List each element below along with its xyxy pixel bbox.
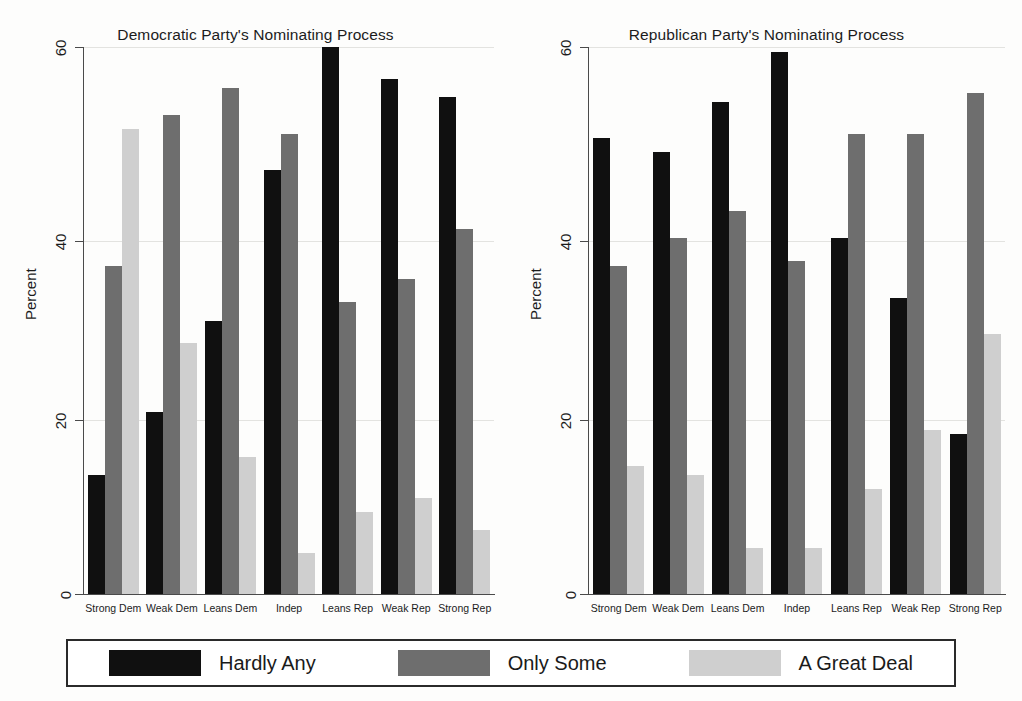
bar xyxy=(222,88,239,594)
x-tick-label: Strong Rep xyxy=(435,599,494,621)
bar xyxy=(381,79,398,594)
panel-title: Republican Party's Nominating Process xyxy=(511,26,1022,44)
bar xyxy=(322,47,339,594)
bar xyxy=(746,548,763,594)
bar xyxy=(907,134,924,594)
bar xyxy=(180,343,197,594)
panel-title: Democratic Party's Nominating Process xyxy=(0,26,511,44)
legend-label: Only Some xyxy=(508,652,607,675)
bar-group xyxy=(377,47,436,594)
legend-swatch-icon xyxy=(398,650,490,676)
x-tick-label: Strong Rep xyxy=(946,599,1005,621)
y-tick-60: 60 xyxy=(580,47,588,48)
plot-area xyxy=(589,47,1005,594)
bar-groups xyxy=(589,47,1005,594)
bar-group xyxy=(946,47,1005,594)
y-tick-label-60: 60 xyxy=(53,39,68,56)
x-tick-label: Strong Dem xyxy=(84,599,143,621)
legend-item: A Great Deal xyxy=(689,650,914,676)
bar xyxy=(339,302,356,594)
y-tick-0: 0 xyxy=(580,594,588,595)
bar xyxy=(456,229,473,594)
y-tick-label-40: 40 xyxy=(53,233,68,250)
x-tick-label: Weak Dem xyxy=(143,599,202,621)
x-tick-labels: Strong DemWeak DemLeans DemIndepLeans Re… xyxy=(589,599,1005,621)
bar xyxy=(473,530,490,594)
bar xyxy=(439,97,456,594)
bar xyxy=(967,93,984,594)
y-tick-40: 40 xyxy=(75,241,83,242)
x-tick-labels: Strong DemWeak DemLeans DemIndepLeans Re… xyxy=(84,599,494,621)
bar xyxy=(122,129,139,594)
x-tick-label: Leans Dem xyxy=(201,599,260,621)
bar-group xyxy=(708,47,767,594)
y-tick-20: 20 xyxy=(75,420,83,421)
bar xyxy=(415,498,432,594)
x-tick-label: Leans Dem xyxy=(708,599,767,621)
bar-group xyxy=(143,47,202,594)
x-tick-label: Indep xyxy=(767,599,826,621)
x-tick-label: Weak Rep xyxy=(377,599,436,621)
bar xyxy=(205,321,222,595)
bar xyxy=(890,298,907,594)
bar xyxy=(848,134,865,594)
x-axis-line xyxy=(588,594,1006,595)
legend-swatch-icon xyxy=(109,650,201,676)
bar-group xyxy=(201,47,260,594)
bar xyxy=(924,430,941,594)
y-tick-20: 20 xyxy=(580,420,588,421)
chart-panel-republican: Republican Party's Nominating Process Pe… xyxy=(511,0,1022,628)
bar xyxy=(356,512,373,594)
bar-group xyxy=(767,47,826,594)
bar xyxy=(788,261,805,594)
legend-label: Hardly Any xyxy=(219,652,316,675)
y-tick-label-0: 0 xyxy=(57,590,72,598)
bar xyxy=(729,211,746,594)
bar-groups xyxy=(84,47,494,594)
bar-group xyxy=(589,47,648,594)
plot-area xyxy=(84,47,494,594)
y-axis-label: Percent xyxy=(527,268,544,320)
legend-label: A Great Deal xyxy=(799,652,914,675)
y-tick-60: 60 xyxy=(75,47,83,48)
bar-group xyxy=(84,47,143,594)
y-axis-label: Percent xyxy=(22,268,39,320)
bar-group xyxy=(260,47,319,594)
bar xyxy=(771,52,788,594)
x-tick-label: Weak Rep xyxy=(886,599,945,621)
x-axis-line xyxy=(83,594,495,595)
bar-group xyxy=(435,47,494,594)
x-tick-label: Leans Rep xyxy=(318,599,377,621)
bar-group xyxy=(318,47,377,594)
x-tick-label: Leans Rep xyxy=(827,599,886,621)
x-tick-label: Weak Dem xyxy=(648,599,707,621)
y-tick-label-0: 0 xyxy=(562,590,577,598)
bar-group xyxy=(886,47,945,594)
bar xyxy=(831,238,848,594)
bar xyxy=(105,266,122,594)
bar-group xyxy=(648,47,707,594)
bar xyxy=(984,334,1001,594)
y-tick-label-60: 60 xyxy=(558,39,573,56)
bar xyxy=(865,489,882,594)
chart-panel-democratic: Democratic Party's Nominating Process Pe… xyxy=(0,0,511,628)
bar xyxy=(593,138,610,594)
legend-swatch-icon xyxy=(689,650,781,676)
bar xyxy=(146,412,163,594)
bar xyxy=(653,152,670,594)
x-tick-label: Strong Dem xyxy=(589,599,648,621)
bar xyxy=(88,475,105,594)
bar xyxy=(950,434,967,594)
y-tick-label-20: 20 xyxy=(53,412,68,429)
bar xyxy=(163,115,180,594)
bar xyxy=(670,238,687,594)
legend-item: Hardly Any xyxy=(109,650,316,676)
bar xyxy=(610,266,627,594)
legend-item: Only Some xyxy=(398,650,607,676)
y-tick-0: 0 xyxy=(75,594,83,595)
bar xyxy=(627,466,644,594)
bar xyxy=(805,548,822,594)
bar xyxy=(239,457,256,594)
y-tick-label-20: 20 xyxy=(558,412,573,429)
bar xyxy=(712,102,729,594)
